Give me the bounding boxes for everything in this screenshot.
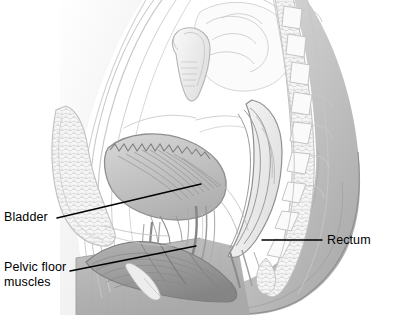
label-rectum: Rectum xyxy=(327,233,371,248)
label-pelvic-floor-line1: Pelvic floor xyxy=(4,260,66,274)
label-pelvic-floor-line2: muscles xyxy=(4,275,51,289)
anatomy-figure: Bladder Pelvic floormuscles Rectum xyxy=(0,0,397,315)
label-bladder: Bladder xyxy=(4,210,48,225)
label-pelvic-floor-muscles: Pelvic floormuscles xyxy=(4,260,66,290)
